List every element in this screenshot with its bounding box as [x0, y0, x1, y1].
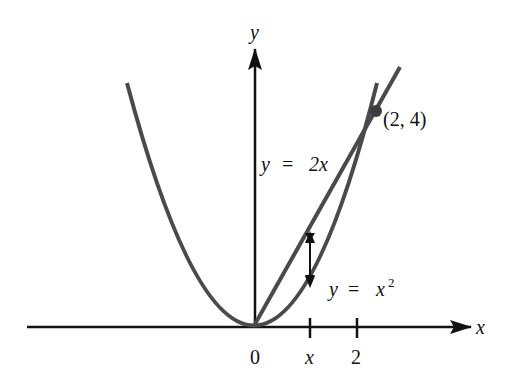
y-axis-label: y [248, 21, 259, 44]
line-label-y: y [259, 153, 270, 176]
x-axis-label: x [475, 316, 485, 338]
origin-label: 0 [250, 346, 260, 368]
parabola-label-y: y [327, 278, 338, 301]
diagram-canvas: y x 0 x 2 (2, 4) y = 2x y = x 2 [0, 0, 514, 382]
parabola-label-eq: = [348, 278, 359, 300]
tick-label-x: x [304, 346, 314, 368]
parabola-label-rhs: x [375, 278, 385, 300]
tick-label-2: 2 [351, 346, 361, 368]
line-label-eq: = [282, 153, 293, 175]
intersection-point [370, 105, 382, 117]
intersection-label: (2, 4) [383, 108, 426, 131]
parabola-label-exp: 2 [388, 275, 395, 290]
line-label-rhs: 2x [309, 153, 328, 175]
parabola-curve [127, 83, 377, 326]
